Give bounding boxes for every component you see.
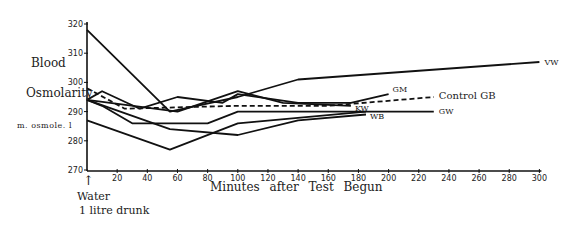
annotation-litre-drunk: 1 litre drunk (79, 204, 149, 217)
x-tick-label: 280 (502, 174, 517, 183)
y-axis-label-blood: Blood (31, 56, 66, 70)
y-tick-label: 310 (68, 49, 83, 58)
x-tick-label: 40 (142, 174, 152, 183)
water-arrow-icon: ↑ (83, 173, 94, 188)
annotation-water: Water (77, 190, 110, 203)
y-tick-label: 270 (68, 166, 83, 175)
x-tick-label: 260 (471, 174, 486, 183)
x-tick-label: 20 (112, 174, 122, 183)
series-label: VW (543, 58, 559, 67)
x-tick-label: 220 (411, 174, 426, 183)
x-tick-label: 240 (441, 174, 456, 183)
series-label: KW (355, 104, 370, 113)
series-label: GW (439, 107, 454, 116)
axes: 2702802903003103202040608010012014016018… (68, 20, 547, 183)
x-tick-label: 60 (172, 174, 182, 183)
series-label: WB (370, 112, 384, 121)
y-tick-label: 320 (68, 20, 83, 29)
x-tick-label: 200 (381, 174, 396, 183)
x-axis-label: Minutes after Test Begun (210, 180, 383, 194)
y-axis-units: m. osmole. l (17, 121, 72, 130)
y-tick-label: 280 (68, 137, 83, 146)
series-label: GM (393, 85, 408, 94)
y-axis-label-osmolarity: Osmolarity (26, 86, 93, 100)
series-label: Control GB (439, 90, 496, 101)
x-tick-label: 300 (532, 174, 547, 183)
y-tick-label: 290 (68, 108, 83, 117)
